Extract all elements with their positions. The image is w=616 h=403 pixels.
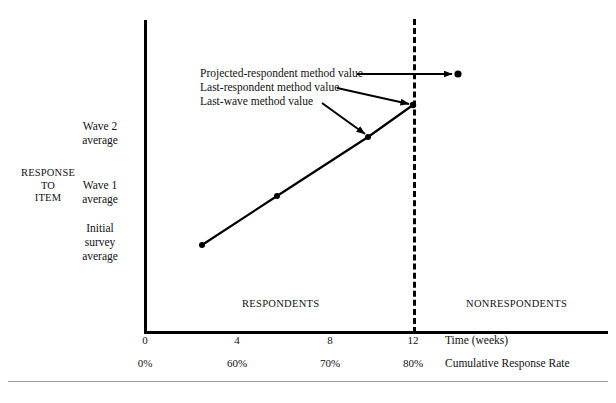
y-tick-label-initial-line-3: average bbox=[64, 249, 136, 263]
y-axis-line bbox=[144, 20, 147, 333]
x-tick-rate-0: 0% bbox=[125, 357, 165, 369]
data-point-projected-respondent-method-value bbox=[454, 70, 461, 77]
x-tick-rate-70: 70% bbox=[310, 357, 350, 369]
y-tick-label-wave-2-average: Wave 2 average bbox=[64, 119, 136, 147]
data-point-wave-2-average bbox=[365, 134, 371, 140]
y-tick-label-wave-2-line-1: Wave 2 bbox=[64, 119, 136, 133]
x-tick-time-0: 0 bbox=[125, 334, 165, 346]
y-tick-label-wave-1-average: Wave 1 average bbox=[64, 178, 136, 206]
x-axis-line bbox=[144, 331, 608, 334]
y-tick-label-initial-survey-average: Initial survey average bbox=[64, 221, 136, 263]
y-tick-label-wave-2-line-2: average bbox=[64, 133, 136, 147]
x-tick-time-8: 8 bbox=[310, 334, 350, 346]
x-tick-time-12: 12 bbox=[393, 334, 433, 346]
x-tick-rate-60: 60% bbox=[217, 357, 257, 369]
x-axis-name-cumulative-response-rate: Cumulative Response Rate bbox=[445, 357, 570, 369]
bottom-separator-rule bbox=[8, 381, 608, 382]
data-point-wave-1-average bbox=[274, 193, 280, 199]
x-tick-rate-80: 80% bbox=[393, 357, 433, 369]
x-axis-name-time: Time (weeks) bbox=[445, 334, 508, 346]
region-label-nonrespondents: NONRESPONDENTS bbox=[466, 298, 567, 309]
y-tick-label-wave-1-line-1: Wave 1 bbox=[64, 178, 136, 192]
leader-arrow-last-wave bbox=[322, 103, 365, 134]
figure-canvas: RESPONSE TO ITEM Wave 2 average Wave 1 a… bbox=[0, 0, 616, 403]
y-tick-label-initial-line-2: survey bbox=[64, 235, 136, 249]
annotation-projected-respondent-method-value: Projected-respondent method value bbox=[200, 67, 363, 81]
annotation-last-wave-method-value: Last-wave method value bbox=[200, 95, 313, 109]
data-point-initial-survey-average bbox=[199, 242, 205, 248]
y-tick-label-wave-1-line-2: average bbox=[64, 192, 136, 206]
y-tick-label-initial-line-1: Initial bbox=[64, 221, 136, 235]
x-tick-time-4: 4 bbox=[217, 334, 257, 346]
series-line-cumulative-response bbox=[202, 105, 413, 245]
annotation-last-respondent-method-value: Last-respondent method value bbox=[200, 81, 339, 95]
region-label-respondents: RESPONDENTS bbox=[242, 298, 319, 309]
leader-arrow-last-respondent bbox=[337, 88, 409, 104]
threshold-dashed-line bbox=[413, 19, 416, 333]
